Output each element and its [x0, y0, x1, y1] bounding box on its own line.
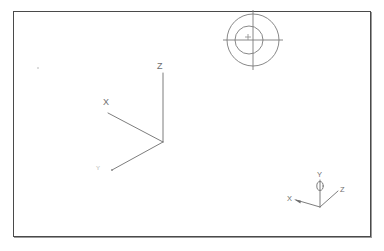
- drawing-viewport[interactable]: [13, 11, 371, 237]
- screenshot-root: Z X Y Y X Z: [0, 0, 384, 251]
- wcs-y-axis-label: Y: [317, 171, 322, 179]
- ucs-x-axis-label: X: [103, 98, 109, 107]
- drawing-speck: [37, 67, 39, 69]
- wcs-x-axis-label: X: [287, 195, 292, 203]
- ucs-z-axis-label: Z: [157, 62, 163, 71]
- wcs-z-axis-label: Z: [340, 186, 345, 194]
- ucs-y-axis-label: Y: [96, 165, 100, 171]
